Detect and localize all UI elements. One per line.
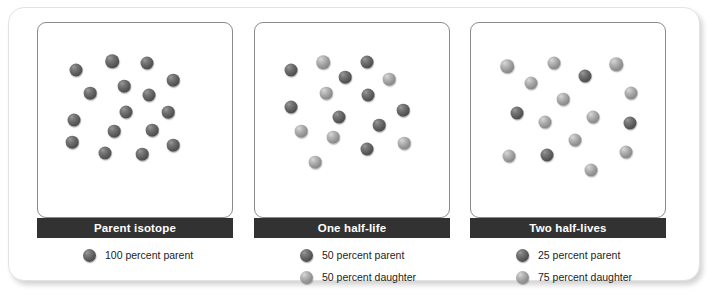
legend-daughter-swatch-icon bbox=[300, 271, 313, 284]
parent-isotope-sphere bbox=[624, 117, 637, 130]
legend-label: 25 percent parent bbox=[538, 250, 620, 261]
daughter-isotope-sphere bbox=[557, 93, 570, 106]
legend-label: 50 percent parent bbox=[322, 250, 404, 261]
legend-parent-swatch-icon bbox=[83, 249, 96, 262]
sphere-field bbox=[254, 22, 450, 218]
legend-label: 75 percent daughter bbox=[538, 272, 632, 283]
parent-isotope-sphere bbox=[120, 106, 133, 119]
legend-item: 50 percent daughter bbox=[254, 266, 450, 288]
parent-isotope-sphere bbox=[108, 125, 121, 138]
panel-title-bar: Parent isotope bbox=[37, 218, 233, 238]
figure-card: Parent isotope100 percent parentOne half… bbox=[8, 7, 700, 281]
panel-legend: 25 percent parent75 percent daughter bbox=[470, 244, 666, 288]
parent-isotope-sphere bbox=[362, 89, 375, 102]
sphere-field bbox=[470, 22, 666, 218]
panel-legend: 50 percent parent50 percent daughter bbox=[254, 244, 450, 288]
parent-isotope-sphere bbox=[285, 101, 298, 114]
daughter-isotope-sphere bbox=[383, 73, 396, 86]
daughter-isotope-sphere bbox=[548, 57, 561, 70]
panel-legend: 100 percent parent bbox=[37, 244, 233, 266]
parent-isotope-sphere bbox=[141, 57, 154, 70]
sphere-field bbox=[37, 22, 233, 218]
legend-item: 25 percent parent bbox=[470, 244, 666, 266]
parent-isotope-sphere bbox=[84, 87, 97, 100]
parent-isotope-sphere bbox=[66, 136, 79, 149]
parent-isotope-sphere bbox=[373, 119, 386, 132]
parent-isotope-sphere bbox=[167, 139, 180, 152]
parent-isotope-sphere bbox=[105, 54, 119, 68]
legend-parent-swatch-icon bbox=[300, 249, 313, 262]
parent-isotope-sphere bbox=[143, 89, 156, 102]
daughter-isotope-sphere bbox=[316, 55, 330, 69]
daughter-isotope-sphere bbox=[398, 137, 411, 150]
daughter-isotope-sphere bbox=[327, 131, 340, 144]
daughter-isotope-sphere bbox=[320, 87, 333, 100]
legend-item: 100 percent parent bbox=[37, 244, 233, 266]
parent-isotope-sphere bbox=[541, 149, 554, 162]
legend-label: 50 percent daughter bbox=[322, 272, 416, 283]
panel-title-label: One half-life bbox=[318, 222, 386, 234]
panel-title-label: Two half-lives bbox=[529, 222, 606, 234]
daughter-isotope-sphere bbox=[539, 116, 552, 129]
parent-isotope-sphere bbox=[118, 80, 131, 93]
parent-isotope-sphere bbox=[285, 64, 298, 77]
panel-title-bar: Two half-lives bbox=[470, 218, 666, 238]
parent-isotope-sphere bbox=[397, 104, 410, 117]
parent-isotope-sphere bbox=[99, 147, 112, 160]
daughter-isotope-sphere bbox=[525, 77, 538, 90]
parent-isotope-sphere bbox=[70, 64, 83, 77]
panel-title-bar: One half-life bbox=[254, 218, 450, 238]
legend-item: 50 percent parent bbox=[254, 244, 450, 266]
parent-isotope-sphere bbox=[167, 74, 180, 87]
parent-isotope-sphere bbox=[162, 106, 175, 119]
daughter-isotope-sphere bbox=[295, 125, 308, 138]
panel-title-label: Parent isotope bbox=[94, 222, 176, 234]
daughter-isotope-sphere bbox=[619, 145, 632, 158]
parent-isotope-sphere bbox=[136, 148, 149, 161]
parent-isotope-sphere bbox=[146, 124, 159, 137]
daughter-isotope-sphere bbox=[500, 59, 514, 73]
panel-1: One half-life50 percent parent50 percent… bbox=[254, 22, 450, 266]
panel-2: Two half-lives25 percent parent75 percen… bbox=[470, 22, 666, 266]
parent-isotope-sphere bbox=[511, 107, 524, 120]
panel-0: Parent isotope100 percent parent bbox=[37, 22, 233, 266]
legend-daughter-swatch-icon bbox=[516, 271, 529, 284]
parent-isotope-sphere bbox=[68, 114, 81, 127]
daughter-isotope-sphere bbox=[609, 57, 623, 71]
legend-label: 100 percent parent bbox=[105, 250, 193, 261]
daughter-isotope-sphere bbox=[503, 150, 516, 163]
parent-isotope-sphere bbox=[579, 70, 592, 83]
legend-parent-swatch-icon bbox=[516, 249, 529, 262]
panel-container: Parent isotope100 percent parentOne half… bbox=[9, 8, 699, 280]
parent-isotope-sphere bbox=[333, 111, 346, 124]
daughter-isotope-sphere bbox=[625, 87, 638, 100]
daughter-isotope-sphere bbox=[587, 111, 600, 124]
parent-isotope-sphere bbox=[361, 143, 374, 156]
daughter-isotope-sphere bbox=[309, 156, 322, 169]
legend-item: 75 percent daughter bbox=[470, 266, 666, 288]
parent-isotope-sphere bbox=[361, 56, 374, 69]
parent-isotope-sphere bbox=[339, 71, 352, 84]
daughter-isotope-sphere bbox=[585, 164, 598, 177]
daughter-isotope-sphere bbox=[569, 134, 582, 147]
